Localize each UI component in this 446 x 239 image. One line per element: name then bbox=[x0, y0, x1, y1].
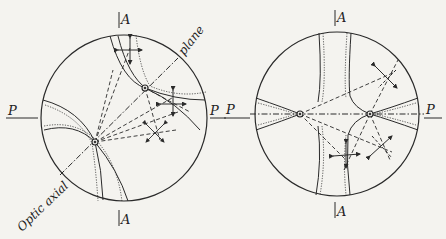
right-stereogram bbox=[224, 10, 442, 218]
left-primitive-circle bbox=[41, 35, 207, 201]
right-primitive-circle bbox=[255, 32, 419, 196]
left-polarizer-right-label: P bbox=[209, 103, 219, 118]
right-analyzer-top-label: A bbox=[336, 10, 346, 25]
left-polarizer-left-label: P bbox=[7, 103, 17, 118]
right-polarizer-left-label: P bbox=[225, 102, 235, 117]
figure-canvas: A A P P plane Optic axial bbox=[0, 0, 446, 239]
left-optic-axial-plane-line bbox=[60, 58, 178, 175]
right-vibration-cross-lower bbox=[333, 143, 360, 168]
left-analyzer-bottom-label: A bbox=[120, 212, 130, 227]
right-polarizer-right-label: P bbox=[425, 102, 435, 117]
right-analyzer-bottom-label: A bbox=[336, 204, 346, 219]
left-vibration-star bbox=[146, 124, 164, 142]
optic-axial-label: Optic axial bbox=[14, 178, 71, 234]
right-isogyre-vertical bbox=[318, 33, 320, 102]
right-vibration-star-upper bbox=[375, 66, 397, 88]
left-analyzer-top-label: A bbox=[120, 12, 130, 27]
plane-label: plane bbox=[175, 23, 207, 58]
left-isogyre-lower bbox=[43, 100, 103, 200]
